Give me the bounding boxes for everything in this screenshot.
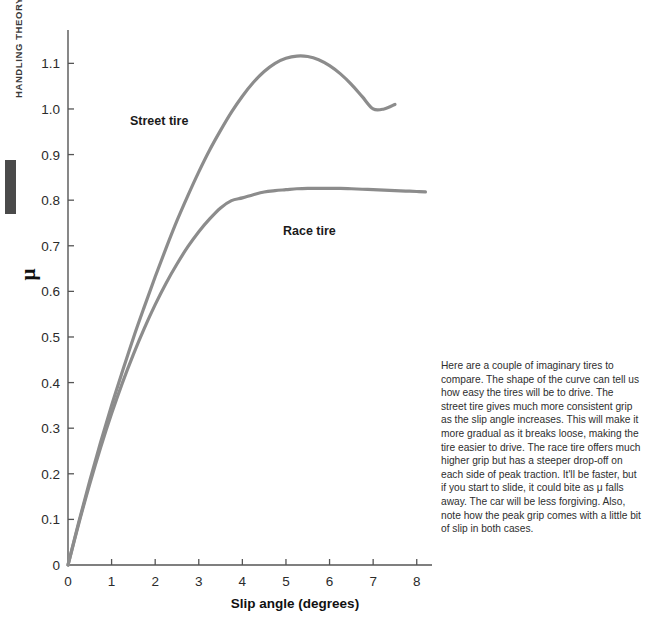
x-axis-tick-label: 7: [361, 574, 385, 589]
series-line-street-tire: [68, 56, 395, 565]
x-axis-tick-label: 6: [318, 574, 342, 589]
y-axis-tick-label: 0.2: [26, 466, 60, 481]
y-axis-tick-label: 0.8: [26, 193, 60, 208]
x-axis-tick-label: 5: [274, 574, 298, 589]
x-axis-tick-label: 1: [100, 574, 124, 589]
x-axis-tick-label: 3: [187, 574, 211, 589]
y-axis-tick-label: 0.4: [26, 375, 60, 390]
y-axis-tick-label: 1.0: [26, 101, 60, 116]
series-group: [68, 56, 425, 565]
y-axis-tick-label: 0.9: [26, 147, 60, 162]
race-tire-label: Race tire: [283, 224, 336, 238]
y-axis-tick-label: 0.1: [26, 512, 60, 527]
x-axis-tick-label: 2: [143, 574, 167, 589]
y-axis-tick-label: 0.5: [26, 329, 60, 344]
street-tire-label: Street tire: [130, 114, 188, 128]
y-axis-tick-label: 0.3: [26, 421, 60, 436]
y-axis-title: μ: [16, 245, 41, 305]
x-axis-title: Slip angle (degrees): [140, 596, 450, 611]
y-axis-tick-label: 0: [26, 558, 60, 573]
y-axis-tick-label: 1.1: [26, 56, 60, 71]
x-axis-tick-label: 4: [230, 574, 254, 589]
x-axis-tick-label: 8: [405, 574, 429, 589]
explanatory-note: Here are a couple of imaginary tires to …: [441, 359, 641, 536]
x-axis-tick-label: 0: [56, 574, 80, 589]
